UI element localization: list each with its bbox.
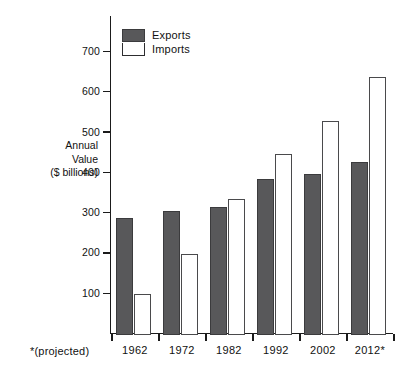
legend-swatch-imports-icon <box>122 43 145 56</box>
x-axis-label-1992: 1992 <box>252 344 299 356</box>
x-axis-tick <box>111 334 112 341</box>
y-axis-tick-label: 100 <box>56 288 100 299</box>
y-axis-tick-label: 600 <box>56 86 100 97</box>
bar-exports-1982 <box>210 207 228 335</box>
legend-label-exports: Exports <box>152 29 191 41</box>
y-axis-tick-label: 200 <box>56 247 100 258</box>
projected-footnote: *(projected) <box>30 345 89 357</box>
plot-area <box>110 16 392 334</box>
bar-chart: Annual Value ($ billions) 70060050040030… <box>0 0 403 377</box>
bar-imports-1962 <box>134 294 152 334</box>
x-axis-tick <box>252 334 253 341</box>
legend-item-imports: Imports <box>122 42 212 56</box>
x-axis-tick <box>393 334 394 341</box>
y-axis-tick-label: 300 <box>56 207 100 218</box>
bar-exports-1992 <box>257 179 275 334</box>
x-axis-tick <box>205 334 206 341</box>
x-axis-label-2002: 2002 <box>299 344 346 356</box>
bar-exports-2002 <box>304 174 322 334</box>
bar-imports-2002 <box>322 121 340 335</box>
x-axis-tick <box>158 334 159 341</box>
y-axis-tick-label: 700 <box>56 46 100 57</box>
bar-exports-2012proj <box>351 162 369 334</box>
y-axis-title-line-1: Annual <box>2 139 98 153</box>
y-axis-tick-label: 400 <box>56 167 100 178</box>
bar-exports-1972 <box>163 211 181 335</box>
legend-label-imports: Imports <box>152 43 190 55</box>
bar-imports-1992 <box>275 154 293 334</box>
x-axis-label-1972: 1972 <box>158 344 205 356</box>
bar-imports-2012proj <box>369 77 387 335</box>
x-axis-label-2012proj: 2012* <box>346 344 393 356</box>
bar-imports-1982 <box>228 199 246 335</box>
chart-legend: Exports Imports <box>122 28 212 56</box>
bar-imports-1972 <box>181 254 199 335</box>
y-axis-tick-label: 500 <box>56 127 100 138</box>
x-axis-tick <box>299 334 300 341</box>
x-axis-label-1982: 1982 <box>205 344 252 356</box>
legend-swatch-exports-icon <box>122 29 145 42</box>
legend-item-exports: Exports <box>122 28 212 42</box>
x-axis-tick <box>346 334 347 341</box>
x-axis-label-1962: 1962 <box>111 344 158 356</box>
y-axis-title-line-2: Value <box>2 153 98 167</box>
bar-exports-1962 <box>116 218 134 335</box>
